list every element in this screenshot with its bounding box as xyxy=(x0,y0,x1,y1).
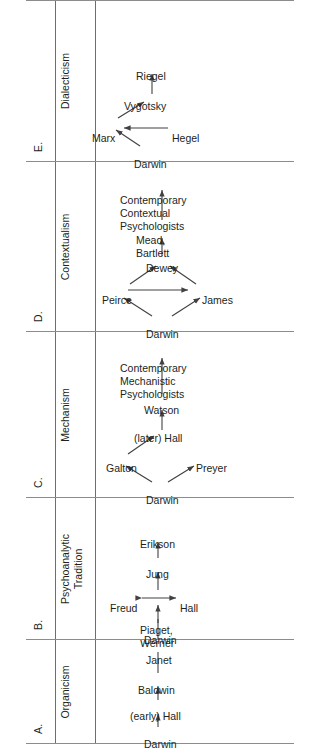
node-d-contemp-line3: Psychologists xyxy=(120,220,184,232)
node-b-darwin: Darwin xyxy=(144,634,177,647)
section-a-worldview: Organicism xyxy=(59,640,72,744)
node-d-contemporary-contextual: Contemporary Contextual Psychologists xyxy=(120,194,187,233)
section-b-diagram: Darwin Hall Freud Jung Erikson xyxy=(96,498,294,640)
section-d-worldview: Contextualism xyxy=(59,162,72,332)
node-c-contemporary-mechanistic: Contemporary Mechanistic Psychologists xyxy=(120,362,187,401)
node-d-contemp-line2: Contextual xyxy=(120,207,170,219)
section-a: A. Organicism Darwin xyxy=(26,640,294,744)
node-b-freud: Freud xyxy=(110,602,137,615)
node-a-janet: Janet xyxy=(146,654,172,667)
node-d-mead-line2: Bartlett xyxy=(136,247,169,259)
node-c-contemp-line3: Psychologists xyxy=(120,388,184,400)
node-c-contemp-line2: Mechanistic xyxy=(120,375,175,387)
section-d-diagram: Darwin Peirce James Dewey Mead, Bartlett… xyxy=(96,162,294,332)
section-b-worldview-line2: Tradition xyxy=(72,549,84,589)
node-a-baldwin: Baldwin xyxy=(138,684,175,697)
node-c-preyer: Preyer xyxy=(196,462,227,475)
node-a-early-hall: (early) Hall xyxy=(130,710,181,723)
section-b-letter: B. xyxy=(32,620,44,630)
node-e-marx: Marx xyxy=(92,132,115,145)
section-d: D. Contextualism xyxy=(26,162,294,332)
node-b-jung: Jung xyxy=(146,568,169,581)
node-c-darwin: Darwin xyxy=(146,494,179,507)
section-e: E. Dialecticism Darwin xyxy=(26,0,294,162)
section-d-letter: D. xyxy=(32,311,44,322)
section-e-worldview: Dialecticism xyxy=(59,0,72,162)
section-a-letter: A. xyxy=(32,724,44,734)
node-d-contemp-line1: Contemporary xyxy=(120,194,187,206)
node-d-peirce: Peirce xyxy=(102,294,132,307)
worldview-table: A. Organicism Darwin xyxy=(26,0,294,744)
section-e-diagram: Darwin Hegel Marx Vygotsky Riegel xyxy=(96,0,294,162)
node-b-hall: Hall xyxy=(180,602,198,615)
node-b-erikson: Erikson xyxy=(140,538,175,551)
node-d-james: James xyxy=(202,294,233,307)
node-e-darwin: Darwin xyxy=(134,158,167,171)
section-a-diagram: Darwin (early) Hall Baldwin Janet Piaget… xyxy=(96,640,294,744)
section-c-worldview: Mechanism xyxy=(59,332,72,498)
section-b: B. Psychoanalytic Tradition xyxy=(26,498,294,640)
node-c-watson: Watson xyxy=(144,404,179,417)
figure-canvas: A. Organicism Darwin xyxy=(26,0,294,744)
node-d-dewey: Dewey xyxy=(146,262,178,275)
node-d-darwin: Darwin xyxy=(146,328,179,341)
section-e-letter: E. xyxy=(32,142,44,152)
node-e-riegel: Riegel xyxy=(136,70,166,83)
section-c: C. Mechanism xyxy=(26,332,294,498)
section-b-worldview-line1: Psychoanalytic xyxy=(59,534,71,604)
node-c-contemp-line1: Contemporary xyxy=(120,362,187,374)
section-c-letter: C. xyxy=(32,477,44,488)
node-a-darwin: Darwin xyxy=(144,738,177,751)
node-d-mead-bartlett: Mead, Bartlett xyxy=(136,234,169,260)
node-c-later-hall: (later) Hall xyxy=(134,432,182,445)
section-b-worldview: Psychoanalytic Tradition xyxy=(59,498,85,640)
node-c-galton: Galton xyxy=(106,462,137,475)
section-c-diagram: Darwin Galton Preyer (later) Hall Watson… xyxy=(96,332,294,498)
node-d-mead-line1: Mead, xyxy=(136,234,165,246)
node-e-hegel: Hegel xyxy=(172,132,199,145)
node-e-vygotsky: Vygotsky xyxy=(124,100,166,113)
